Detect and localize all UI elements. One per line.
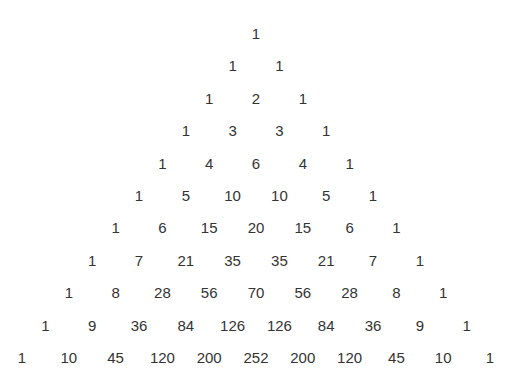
triangle-entry: 1: [182, 122, 190, 139]
triangle-entry: 4: [299, 154, 307, 171]
triangle-entry: 45: [107, 349, 124, 366]
triangle-entry: 120: [337, 349, 362, 366]
triangle-entry: 126: [220, 316, 245, 333]
triangle-entry: 1: [462, 316, 470, 333]
triangle-entry: 200: [197, 349, 222, 366]
triangle-entry: 21: [177, 251, 194, 268]
triangle-entry: 70: [248, 284, 265, 301]
triangle-entry: 36: [365, 316, 382, 333]
triangle-entry: 2: [252, 89, 260, 106]
triangle-entry: 5: [182, 187, 190, 204]
triangle-entry: 8: [111, 284, 119, 301]
triangle-entry: 1: [275, 57, 283, 74]
triangle-entry: 1: [486, 349, 494, 366]
triangle-entry: 200: [290, 349, 315, 366]
triangle-entry: 9: [416, 316, 424, 333]
triangle-entry: 21: [318, 251, 335, 268]
triangle-entry: 20: [248, 219, 265, 236]
triangle-entry: 126: [267, 316, 292, 333]
triangle-entry: 1: [88, 251, 96, 268]
triangle-entry: 120: [150, 349, 175, 366]
triangle-entry: 3: [275, 122, 283, 139]
triangle-entry: 28: [341, 284, 358, 301]
triangle-entry: 5: [322, 187, 330, 204]
triangle-entry: 1: [392, 219, 400, 236]
triangle-entry: 1: [158, 154, 166, 171]
triangle-entry: 1: [41, 316, 49, 333]
triangle-entry: 10: [60, 349, 77, 366]
triangle-entry: 1: [252, 25, 260, 42]
triangle-entry: 1: [111, 219, 119, 236]
triangle-entry: 252: [243, 349, 268, 366]
triangle-entry: 9: [88, 316, 96, 333]
triangle-entry: 7: [135, 251, 143, 268]
triangle-entry: 35: [271, 251, 288, 268]
triangle-entry: 1: [322, 122, 330, 139]
triangle-entry: 1: [205, 89, 213, 106]
triangle-entry: 1: [369, 187, 377, 204]
triangle-entry: 35: [224, 251, 241, 268]
triangle-entry: 10: [224, 187, 241, 204]
triangle-entry: 15: [294, 219, 311, 236]
triangle-entry: 7: [369, 251, 377, 268]
triangle-entry: 10: [271, 187, 288, 204]
triangle-entry: 8: [392, 284, 400, 301]
triangle-entry: 1: [299, 89, 307, 106]
triangle-entry: 36: [131, 316, 148, 333]
triangle-entry: 10: [435, 349, 452, 366]
triangle-entry: 6: [345, 219, 353, 236]
triangle-entry: 84: [318, 316, 335, 333]
triangle-entry: 56: [201, 284, 218, 301]
triangle-entry: 28: [154, 284, 171, 301]
triangle-entry: 56: [294, 284, 311, 301]
triangle-entry: 15: [201, 219, 218, 236]
triangle-entry: 1: [18, 349, 26, 366]
triangle-entry: 6: [158, 219, 166, 236]
triangle-entry: 1: [345, 154, 353, 171]
triangle-entry: 1: [416, 251, 424, 268]
triangle-entry: 1: [65, 284, 73, 301]
pascal-triangle: 1111211331146411510105116152015611721353…: [0, 0, 516, 387]
triangle-entry: 4: [205, 154, 213, 171]
triangle-entry: 6: [252, 154, 260, 171]
triangle-entry: 45: [388, 349, 405, 366]
triangle-entry: 3: [228, 122, 236, 139]
triangle-entry: 1: [135, 187, 143, 204]
triangle-entry: 84: [177, 316, 194, 333]
triangle-entry: 1: [228, 57, 236, 74]
triangle-entry: 1: [439, 284, 447, 301]
